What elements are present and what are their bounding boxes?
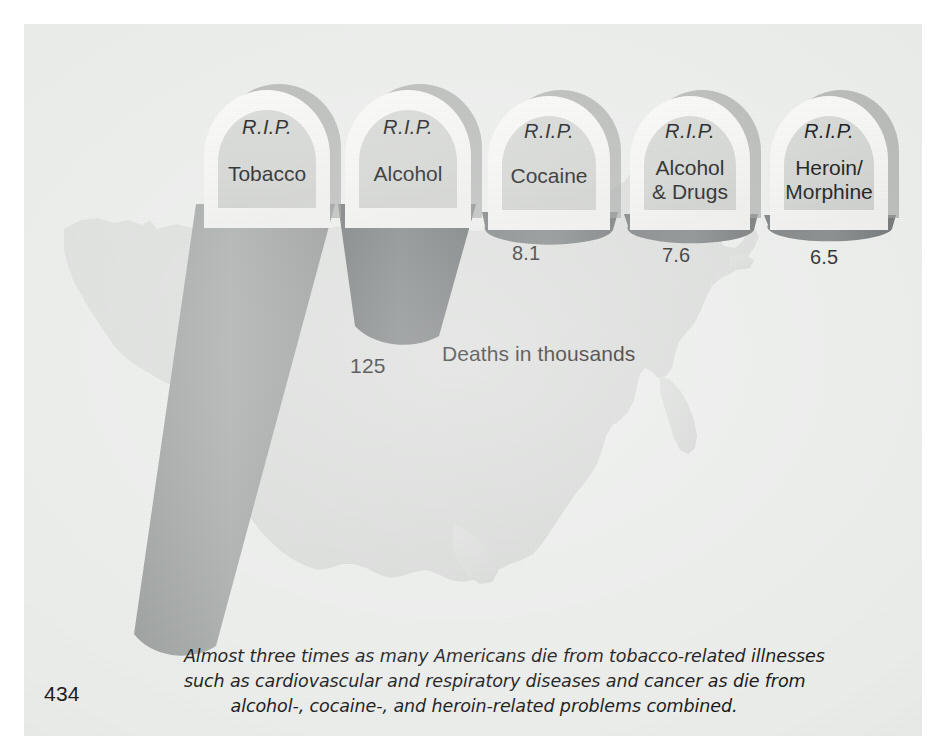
tombstone-alcohol: R.I.P. Alcohol: [345, 84, 471, 230]
rip-label: R.I.P.: [488, 120, 610, 143]
scanned-page: R.I.P. Tobacco R.I.P. Alcohol R.I.P. Coc…: [24, 24, 922, 736]
rip-label: R.I.P.: [345, 116, 471, 139]
tombstone-label: Heroin/ Morphine: [770, 156, 888, 203]
tombstone-label: Alcohol: [345, 162, 471, 186]
rip-label: R.I.P.: [630, 120, 750, 143]
figure-canvas: R.I.P. Tobacco R.I.P. Alcohol R.I.P. Coc…: [0, 0, 945, 754]
bar-value-heroin-morphine: 6.5: [810, 246, 838, 269]
deaths-in-thousands-label: Deaths in thousands: [442, 342, 635, 366]
bar-value-alcohol-drugs: 7.6: [662, 244, 690, 267]
caption-line-2: such as cardiovascular and respiratory d…: [184, 669, 784, 694]
bar-value-cocaine: 8.1: [512, 242, 540, 265]
tombstone-alcohol-drugs: R.I.P. Alcohol & Drugs: [630, 90, 750, 230]
bar-value-alcohol: 125: [350, 354, 386, 378]
tombstone-label: Cocaine: [488, 164, 610, 188]
tombstone-tobacco: R.I.P. Tobacco: [204, 84, 330, 230]
rip-label: R.I.P.: [204, 116, 330, 139]
tombstone-heroin-morphine: R.I.P. Heroin/ Morphine: [770, 90, 888, 230]
tombstone-cocaine: R.I.P. Cocaine: [488, 90, 610, 230]
rip-label: R.I.P.: [770, 120, 888, 143]
tombstone-label: Alcohol & Drugs: [630, 156, 750, 203]
tombstone-label: Tobacco: [204, 162, 330, 186]
bar-value-tobacco: 434: [44, 682, 80, 706]
caption-line-1: Almost three times as many Americans die…: [184, 644, 784, 669]
caption-line-3: alcohol-, cocaine-, and heroin-related p…: [184, 694, 784, 719]
figure-caption: Almost three times as many Americans die…: [184, 644, 784, 719]
